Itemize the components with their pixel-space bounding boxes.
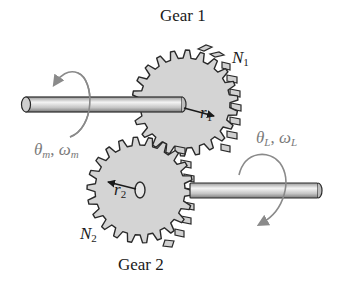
separator: , (50, 140, 59, 159)
gear-1-radius-label: r1 (200, 103, 212, 123)
radius-subscript: 2 (121, 188, 127, 200)
gear-2-radius-label: r2 (114, 180, 126, 200)
motor-shaft-label: θm, ωm (34, 140, 79, 160)
gear-train-diagram: Gear 1 N1 r1 r2 N2 Gear 2 θm, ωm θL, ωL (0, 0, 342, 286)
radius-subscript: 1 (207, 111, 213, 123)
speed-symbol: ω (59, 140, 71, 159)
separator: , (270, 128, 279, 147)
gear-2 (87, 137, 195, 247)
teeth-symbol: N (232, 48, 243, 67)
radius-symbol: r (114, 180, 121, 199)
speed-symbol: ω (279, 128, 291, 147)
radius-symbol: r (200, 103, 207, 122)
speed-subscript: L (291, 136, 297, 148)
load-shaft-label: θL, ωL (256, 128, 297, 148)
teeth-symbol: N (80, 224, 91, 243)
speed-subscript: m (71, 148, 79, 160)
teeth-subscript: 2 (91, 232, 97, 244)
gear-2-teeth-label: N2 (80, 224, 97, 244)
load-shaft (190, 183, 322, 198)
teeth-subscript: 1 (243, 56, 249, 68)
gear-1-teeth-label: N1 (232, 48, 249, 68)
motor-shaft (22, 97, 187, 112)
gear-2-hub-icon (135, 182, 145, 198)
gear-2-label: Gear 2 (118, 255, 164, 275)
gear-1-label: Gear 1 (160, 6, 206, 26)
